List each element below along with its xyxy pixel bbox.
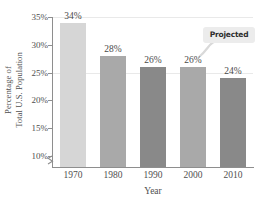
bar-value-label: 34% — [53, 11, 93, 21]
bar-value-label: 28% — [93, 44, 133, 54]
x-axis-label: Year — [53, 186, 253, 196]
projected-annotation-label: Projected — [203, 27, 255, 43]
projected-annotation-badge: Projected — [203, 27, 255, 43]
x-axis-tick-label: 2000 — [173, 170, 213, 181]
bar-chart-figure: Percentage of Total U.S. Population 10%1… — [0, 0, 262, 208]
x-axis-tick-label: 2010 — [213, 170, 253, 181]
x-axis-tick-label: 1990 — [133, 170, 173, 181]
x-axis-tick-label: 1980 — [93, 170, 133, 181]
x-axis-tick-label: 1970 — [53, 170, 93, 181]
bar-value-label: 26% — [133, 55, 173, 65]
bar-value-label: 26% — [173, 55, 213, 65]
bar-value-label: 24% — [213, 66, 253, 76]
